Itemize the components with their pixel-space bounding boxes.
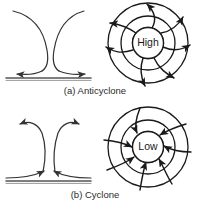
center-label-high: High [137,36,159,48]
center-label-low: Low [138,140,158,152]
caption-cyclone: (b) Cyclone [71,189,120,200]
caption-anticyclone: (a) Anticyclone [64,85,126,96]
airflow-diagram: High (a) Anticyclone [0,0,197,203]
